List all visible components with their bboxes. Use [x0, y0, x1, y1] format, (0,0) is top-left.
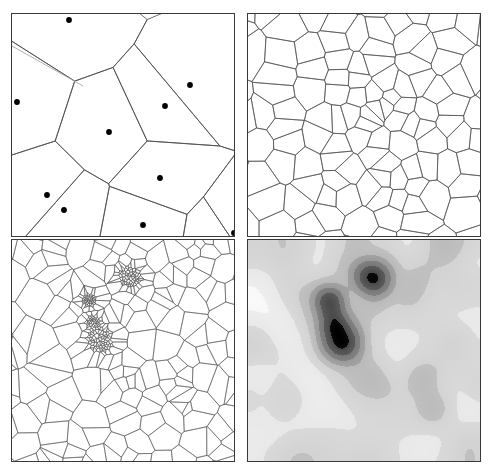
panel-grayscale-density-field — [247, 239, 481, 462]
coarse-voronoi-svg — [11, 13, 235, 237]
panel-refined-voronoi-level2 — [11, 239, 235, 462]
refined-voronoi-level1-svg — [247, 13, 481, 237]
density-field-canvas — [247, 239, 481, 462]
figure-canvas — [0, 0, 492, 475]
panel-coarse-voronoi — [11, 13, 235, 237]
panel-refined-voronoi-level1 — [247, 13, 481, 237]
refined-voronoi-level2-svg — [11, 239, 235, 462]
